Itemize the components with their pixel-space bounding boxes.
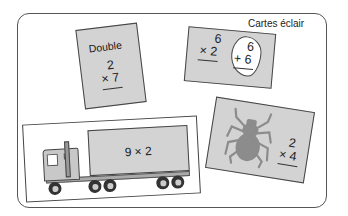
card-bottom-number: × 2	[199, 43, 218, 58]
card-word: Double	[88, 39, 122, 55]
trailer-label: 9 × 2	[124, 144, 152, 159]
underline	[103, 87, 123, 90]
wheel-icon	[103, 179, 117, 193]
card-double: Double 2 × 7	[75, 23, 146, 110]
cloud-bottom-number: + 6	[233, 51, 252, 66]
truck-icon	[42, 148, 80, 182]
card-bottom-number: × 4	[278, 147, 298, 164]
spider-icon	[221, 106, 277, 171]
cab-window	[47, 154, 59, 167]
wheel-icon	[88, 180, 102, 194]
card-bottom-number: × 7	[101, 70, 120, 86]
wheel-icon	[171, 175, 185, 189]
card-spider: 2 × 4	[205, 97, 315, 184]
wheel-icon	[156, 176, 170, 190]
truck-trailer: 9 × 2	[87, 125, 189, 176]
exhaust-stack	[64, 141, 71, 177]
card-six-times-two: 6 × 2 6 + 6	[184, 26, 276, 88]
underline	[198, 59, 218, 62]
wheel-icon	[48, 182, 62, 196]
title: Cartes éclair	[248, 18, 304, 29]
card-truck: 9 × 2	[22, 115, 201, 202]
